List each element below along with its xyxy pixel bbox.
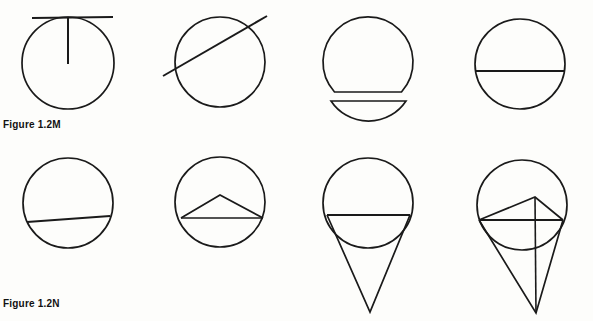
- major-segment-outline: [323, 17, 413, 92]
- figure-circle-with-secant: [163, 16, 267, 107]
- figure-caption-bottom: Figure 1.2N: [3, 298, 60, 309]
- figure-circle-with-diameter: [475, 19, 565, 109]
- cone-triangle: [327, 215, 410, 312]
- geometry-figure-canvas: [0, 0, 593, 321]
- figure-caption-top: Figure 1.2M: [3, 119, 61, 130]
- circle-outline: [477, 160, 567, 250]
- inscribed-triangle: [181, 195, 263, 218]
- detached-minor-segment: [331, 101, 406, 121]
- circle-outline: [475, 19, 565, 109]
- figure-circle-with-tangent-and-radius: [22, 17, 114, 109]
- figure-circle-with-chord: [23, 158, 113, 248]
- inscribed-triangle: [479, 197, 563, 220]
- figure-circle-with-inscribed-triangle: [175, 157, 265, 247]
- circle-outline: [23, 158, 113, 248]
- circle-outline: [175, 157, 265, 247]
- figure-circle-with-cone-triangle-and-axis: [477, 160, 567, 313]
- cone-triangle: [479, 220, 563, 313]
- figure-group-row-top: [22, 16, 565, 121]
- figure-circle-split-into-segments: [323, 17, 413, 121]
- figure-group-row-bottom: [23, 157, 567, 313]
- tangent-line: [32, 17, 113, 18]
- chord-line: [27, 216, 110, 222]
- axis-line: [535, 197, 536, 313]
- figure-circle-with-cone: [323, 158, 413, 312]
- figure-page: Figure 1.2M Figure 1.2N: [0, 0, 593, 321]
